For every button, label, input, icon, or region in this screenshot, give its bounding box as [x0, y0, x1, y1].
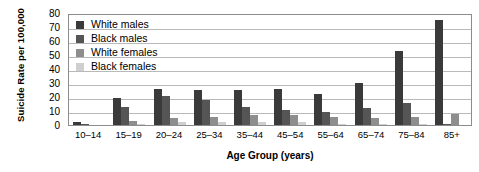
bar — [355, 83, 363, 125]
x-axis-title: Age Group (years) — [68, 150, 472, 161]
bar — [443, 124, 451, 125]
x-axis-tick-labels: 10–1415–1920–2425–3435–4445–5455–6465–74… — [68, 128, 472, 142]
y-axis-tick-labels: 80706050403020100 — [20, 14, 64, 126]
bar-group — [270, 15, 310, 125]
bar — [403, 103, 411, 125]
bar — [234, 90, 242, 125]
x-tick-label: 15–19 — [108, 128, 148, 142]
legend-swatch-icon — [76, 21, 84, 29]
y-tick-label: 0 — [54, 121, 60, 131]
x-tick-label: 45–54 — [270, 128, 310, 142]
x-tick-label: 65–74 — [351, 128, 391, 142]
bar-group — [391, 15, 431, 125]
y-tick-label: 70 — [49, 23, 60, 33]
legend-swatch-icon — [76, 49, 84, 57]
bar — [121, 107, 129, 125]
bar — [395, 51, 403, 125]
bar — [73, 122, 81, 125]
x-tick-label: 20–24 — [149, 128, 189, 142]
bar — [290, 115, 298, 125]
x-tick-label: 25–34 — [189, 128, 229, 142]
legend-item: White males — [76, 18, 226, 31]
y-tick-label: 60 — [49, 37, 60, 47]
bar — [338, 124, 346, 125]
bar — [178, 122, 186, 125]
legend-label: White females — [91, 47, 158, 58]
bar — [129, 121, 137, 125]
bar — [218, 122, 226, 125]
bar — [274, 89, 282, 125]
bar — [154, 89, 162, 125]
bar-group — [310, 15, 350, 125]
bar — [298, 122, 306, 125]
legend-label: Black males — [91, 33, 148, 44]
x-tick-label: 35–44 — [230, 128, 270, 142]
legend-item: Black males — [76, 32, 226, 45]
legend-label: White males — [91, 19, 149, 30]
legend-swatch-icon — [76, 63, 84, 71]
bar — [81, 124, 89, 125]
y-tick-label: 80 — [49, 9, 60, 19]
x-tick-label: 55–64 — [310, 128, 350, 142]
legend-label: Black females — [91, 61, 156, 72]
legend-item: White females — [76, 46, 226, 59]
bar — [194, 90, 202, 125]
y-tick-label: 50 — [49, 51, 60, 61]
bar — [322, 112, 330, 125]
bar — [162, 96, 170, 125]
x-tick-label: 85+ — [432, 128, 472, 142]
y-tick-label: 10 — [49, 107, 60, 117]
bar — [113, 98, 121, 125]
legend-swatch-icon — [76, 35, 84, 43]
bar — [202, 100, 210, 125]
y-tick-label: 30 — [49, 79, 60, 89]
bar — [258, 122, 266, 125]
bar-group — [350, 15, 390, 125]
bar-group — [230, 15, 270, 125]
bar — [137, 124, 145, 125]
bar — [250, 115, 258, 125]
bar — [314, 94, 322, 125]
suicide-rate-bar-chart: Suicide Rate per 100,000 807060504030201… — [0, 0, 479, 172]
bar — [210, 117, 218, 125]
bar — [170, 118, 178, 125]
bar — [419, 124, 427, 125]
bar — [435, 20, 443, 125]
x-tick-label: 10–14 — [68, 128, 108, 142]
bar — [371, 118, 379, 125]
bar — [282, 110, 290, 125]
legend-item: Black females — [76, 60, 226, 73]
x-tick-label: 75–84 — [391, 128, 431, 142]
bar-group — [431, 15, 471, 125]
bar — [363, 108, 371, 125]
chart-legend: White malesBlack malesWhite femalesBlack… — [76, 18, 226, 74]
bar — [330, 117, 338, 125]
bar — [411, 117, 419, 125]
bar — [379, 124, 387, 125]
bar — [451, 114, 459, 125]
y-tick-label: 20 — [49, 93, 60, 103]
y-tick-label: 40 — [49, 65, 60, 75]
bar — [242, 107, 250, 125]
